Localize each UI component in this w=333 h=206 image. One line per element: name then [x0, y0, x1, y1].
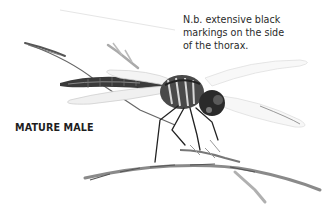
grass-seedhead-top	[108, 45, 138, 68]
grass-seedhead-middle	[180, 150, 240, 162]
dragonfly-right-wing	[215, 95, 305, 127]
grass-stem-bottom	[85, 166, 320, 191]
thorax-note: N.b. extensive black markings on the sid…	[183, 13, 313, 52]
dragonfly-forewing	[68, 86, 171, 104]
illustration-canvas: N.b. extensive black markings on the sid…	[0, 0, 333, 206]
dragonfly-upper-right-wing	[205, 60, 308, 86]
grass-blade-lower	[235, 172, 265, 202]
mature-male-label: MATURE MALE	[15, 122, 94, 133]
background-grass-stroke	[60, 10, 175, 30]
